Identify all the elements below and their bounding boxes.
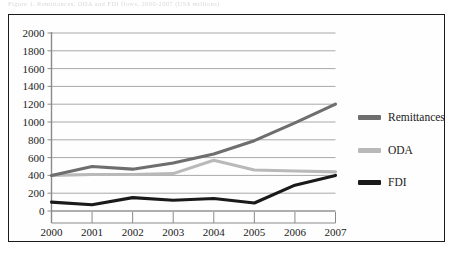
legend-label: FDI (388, 177, 407, 189)
legend-label: ODA (388, 145, 413, 157)
x-tick-label: 2005 (243, 226, 266, 238)
x-tick-label: 2000 (41, 226, 64, 238)
x-axis-ticks: 20002001200220032004200520062007 (41, 212, 348, 238)
y-tick-label: 1000 (23, 116, 46, 128)
y-tick-label: 1400 (23, 80, 46, 92)
y-tick-label: 800 (28, 134, 45, 146)
legend-swatch-icon (358, 180, 381, 185)
legend-swatch-icon (358, 115, 381, 120)
x-tick-label: 2004 (203, 226, 226, 238)
legend-item: Remittances (358, 112, 445, 124)
x-tick-label: 2001 (81, 226, 103, 238)
legend-item: ODA (358, 145, 445, 157)
y-tick-label: 0 (39, 205, 45, 217)
y-tick-label: 200 (28, 187, 45, 199)
x-tick-label: 2007 (325, 226, 348, 238)
legend-swatch-icon (358, 148, 381, 153)
x-tick-label: 2003 (162, 226, 185, 238)
y-tick-label: 1800 (23, 45, 46, 57)
legend-label: Remittances (388, 112, 445, 124)
legend-item: FDI (358, 177, 445, 189)
x-tick-label: 2002 (122, 226, 144, 238)
x-tick-label: 2006 (284, 226, 307, 238)
y-tick-label: 1200 (23, 98, 46, 110)
y-tick-label: 400 (28, 169, 45, 181)
y-tick-label: 1600 (23, 63, 46, 75)
y-tick-label: 2000 (23, 27, 46, 39)
y-tick-label: 600 (28, 152, 45, 164)
series-line-fdi (52, 175, 336, 204)
chart-legend: RemittancesODAFDI (358, 112, 445, 189)
